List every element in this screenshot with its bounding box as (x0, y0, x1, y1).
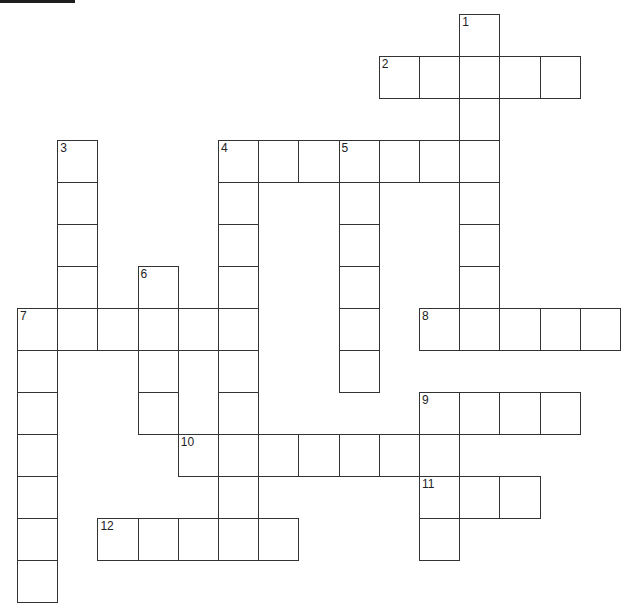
cell-letter-input[interactable] (340, 351, 379, 392)
cell-letter-input[interactable] (58, 141, 97, 182)
crossword-cell[interactable] (459, 140, 500, 183)
crossword-cell[interactable] (218, 476, 259, 519)
crossword-cell[interactable] (459, 308, 500, 351)
cell-letter-input[interactable] (259, 519, 298, 560)
cell-letter-input[interactable] (139, 519, 178, 560)
cell-letter-input[interactable] (541, 393, 580, 434)
crossword-cell[interactable] (379, 140, 420, 183)
crossword-cell[interactable] (540, 56, 581, 99)
crossword-cell[interactable]: 1 (459, 14, 500, 57)
cell-letter-input[interactable] (58, 183, 97, 224)
cell-letter-input[interactable] (58, 267, 97, 308)
crossword-cell[interactable]: 2 (379, 56, 420, 99)
crossword-cell[interactable] (178, 518, 219, 561)
cell-letter-input[interactable] (219, 267, 258, 308)
cell-letter-input[interactable] (18, 351, 57, 392)
crossword-cell[interactable] (258, 140, 299, 183)
cell-letter-input[interactable] (98, 519, 137, 560)
cell-letter-input[interactable] (219, 183, 258, 224)
cell-letter-input[interactable] (219, 225, 258, 266)
crossword-cell[interactable] (580, 308, 621, 351)
cell-letter-input[interactable] (460, 477, 499, 518)
crossword-cell[interactable]: 12 (97, 518, 138, 561)
cell-letter-input[interactable] (340, 309, 379, 350)
crossword-cell[interactable] (459, 98, 500, 141)
crossword-cell[interactable] (17, 476, 58, 519)
crossword-cell[interactable] (339, 182, 380, 225)
crossword-cell[interactable]: 11 (419, 476, 460, 519)
cell-letter-input[interactable] (139, 393, 178, 434)
cell-letter-input[interactable] (340, 267, 379, 308)
crossword-cell[interactable] (218, 434, 259, 477)
cell-letter-input[interactable] (98, 309, 137, 350)
cell-letter-input[interactable] (380, 435, 419, 476)
crossword-cell[interactable] (258, 518, 299, 561)
cell-letter-input[interactable] (139, 351, 178, 392)
cell-letter-input[interactable] (179, 435, 218, 476)
crossword-cell[interactable] (499, 392, 540, 435)
cell-letter-input[interactable] (219, 435, 258, 476)
crossword-cell[interactable] (138, 392, 179, 435)
crossword-cell[interactable] (57, 308, 98, 351)
cell-letter-input[interactable] (219, 393, 258, 434)
crossword-cell[interactable] (17, 518, 58, 561)
crossword-cell[interactable] (17, 350, 58, 393)
crossword-cell[interactable] (459, 392, 500, 435)
cell-letter-input[interactable] (541, 309, 580, 350)
crossword-cell[interactable]: 10 (178, 434, 219, 477)
crossword-cell[interactable] (339, 224, 380, 267)
cell-letter-input[interactable] (340, 183, 379, 224)
crossword-cell[interactable] (419, 518, 460, 561)
cell-letter-input[interactable] (18, 561, 57, 602)
cell-letter-input[interactable] (18, 435, 57, 476)
crossword-cell[interactable] (17, 392, 58, 435)
cell-letter-input[interactable] (219, 309, 258, 350)
cell-letter-input[interactable] (500, 57, 539, 98)
cell-letter-input[interactable] (219, 351, 258, 392)
crossword-cell[interactable] (419, 434, 460, 477)
crossword-cell[interactable] (298, 434, 339, 477)
crossword-cell[interactable] (258, 434, 299, 477)
cell-letter-input[interactable] (58, 309, 97, 350)
crossword-cell[interactable]: 6 (138, 266, 179, 309)
crossword-cell[interactable] (339, 308, 380, 351)
cell-letter-input[interactable] (139, 267, 178, 308)
cell-letter-input[interactable] (460, 99, 499, 140)
crossword-cell[interactable] (499, 308, 540, 351)
cell-letter-input[interactable] (259, 141, 298, 182)
cell-letter-input[interactable] (219, 519, 258, 560)
cell-letter-input[interactable] (420, 309, 459, 350)
cell-letter-input[interactable] (18, 519, 57, 560)
cell-letter-input[interactable] (541, 57, 580, 98)
crossword-cell[interactable]: 7 (17, 308, 58, 351)
crossword-cell[interactable] (138, 350, 179, 393)
crossword-cell[interactable]: 3 (57, 140, 98, 183)
cell-letter-input[interactable] (179, 519, 218, 560)
cell-letter-input[interactable] (18, 309, 57, 350)
crossword-cell[interactable] (499, 476, 540, 519)
cell-letter-input[interactable] (460, 309, 499, 350)
crossword-cell[interactable] (339, 266, 380, 309)
cell-letter-input[interactable] (420, 393, 459, 434)
crossword-cell[interactable] (218, 518, 259, 561)
cell-letter-input[interactable] (500, 309, 539, 350)
cell-letter-input[interactable] (500, 393, 539, 434)
cell-letter-input[interactable] (259, 435, 298, 476)
cell-letter-input[interactable] (139, 309, 178, 350)
crossword-cell[interactable] (218, 308, 259, 351)
crossword-cell[interactable] (499, 56, 540, 99)
cell-letter-input[interactable] (420, 519, 459, 560)
crossword-cell[interactable] (17, 560, 58, 603)
crossword-cell[interactable] (339, 434, 380, 477)
crossword-cell[interactable] (298, 140, 339, 183)
crossword-cell[interactable] (218, 224, 259, 267)
cell-letter-input[interactable] (460, 225, 499, 266)
cell-letter-input[interactable] (581, 309, 620, 350)
crossword-cell[interactable] (138, 518, 179, 561)
cell-letter-input[interactable] (340, 225, 379, 266)
crossword-cell[interactable] (540, 308, 581, 351)
crossword-cell[interactable] (97, 308, 138, 351)
crossword-cell[interactable] (459, 224, 500, 267)
cell-letter-input[interactable] (420, 57, 459, 98)
cell-letter-input[interactable] (460, 267, 499, 308)
